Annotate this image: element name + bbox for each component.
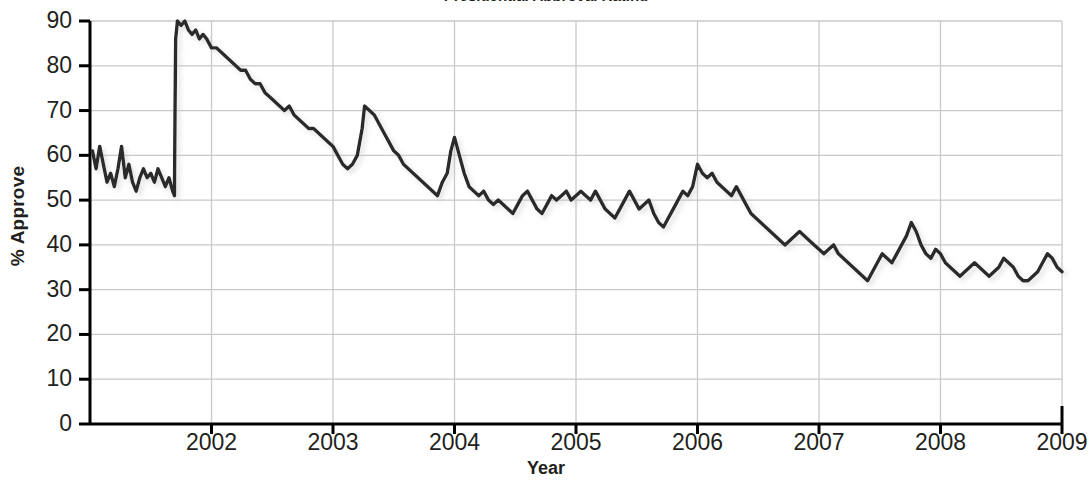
gridlines <box>90 21 1062 424</box>
plot-area <box>0 0 1092 481</box>
chart-container: Presidential Approval Rating % Approve Y… <box>0 0 1092 481</box>
approval-rating-line <box>92 21 1062 281</box>
